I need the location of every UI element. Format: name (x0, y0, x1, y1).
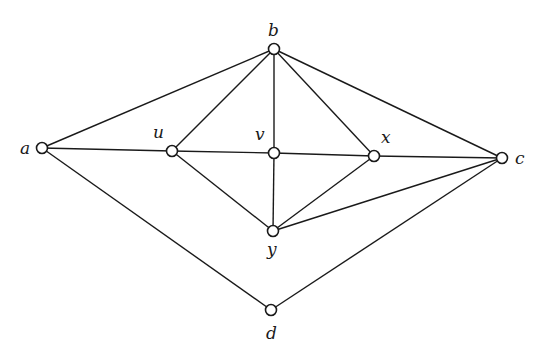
edge-v-y (273, 153, 274, 231)
node-y (268, 226, 279, 237)
edge-a-u (42, 148, 172, 151)
edges (42, 49, 502, 310)
node-c (497, 153, 508, 164)
node-label-u: u (153, 122, 164, 142)
graph-diagram: abuvxcyd (0, 0, 537, 356)
labels: abuvxcyd (20, 20, 525, 343)
node-label-c: c (515, 148, 525, 168)
edge-a-d (42, 148, 271, 310)
node-a (37, 143, 48, 154)
node-u (167, 146, 178, 157)
node-d (266, 305, 277, 316)
edge-b-x (274, 49, 374, 156)
node-b (269, 44, 280, 55)
edge-x-y (273, 156, 374, 231)
node-label-x: x (381, 127, 391, 147)
node-v (269, 148, 280, 159)
node-x (369, 151, 380, 162)
edge-x-c (374, 156, 502, 158)
edge-y-c (273, 158, 502, 231)
edge-d-c (271, 158, 502, 310)
edge-v-x (274, 153, 374, 156)
node-label-y: y (266, 239, 277, 259)
edge-u-v (172, 151, 274, 153)
node-label-v: v (255, 124, 265, 144)
node-label-d: d (266, 323, 277, 343)
node-label-b: b (268, 20, 279, 40)
edge-u-y (172, 151, 273, 231)
node-label-a: a (20, 138, 30, 158)
